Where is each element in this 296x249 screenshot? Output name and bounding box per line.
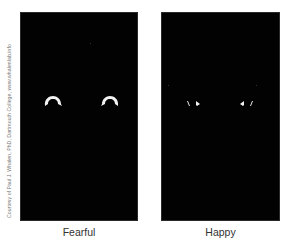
fearful-caption: Fearful [20,226,138,238]
noise-speck [90,43,91,44]
noise-speck [256,85,257,86]
happy-caption: Happy [161,226,280,238]
credit-line: Courtesy of Paul J. Whalen, PhD, Dartmou… [6,8,12,218]
happy-left-eye-white [186,99,202,109]
happy-right-eye-white [238,99,254,109]
fearful-eyes-panel [20,12,138,221]
noise-speck [168,85,169,86]
fearful-right-eye-white [100,95,120,109]
fearful-left-eye-white [43,95,63,109]
happy-eyes-panel [161,12,280,221]
